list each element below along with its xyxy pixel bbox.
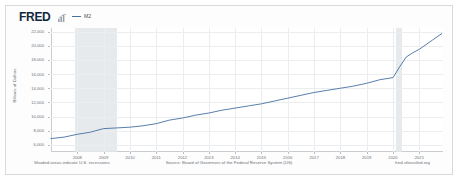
y-tick-mark [48,46,50,47]
y-tick-label: 22,000 [31,29,44,34]
chart-card: FRED M2 Billions of Dollars 22,00020,000… [5,5,453,175]
fred-chart-screenshot: FRED M2 Billions of Dollars 22,00020,000… [0,0,460,184]
y-tick-mark [48,102,50,103]
x-tick-mark [419,152,420,154]
series-path-m2 [51,34,442,139]
y-tick-mark [48,88,50,89]
y-tick-label: 12,000 [31,100,44,105]
y-tick-label: 10,000 [31,114,44,119]
y-tick-mark [48,74,50,75]
y-tick-label: 16,000 [31,72,44,77]
legend-label-m2[interactable]: M2 [84,13,91,20]
x-tick-mark [367,152,368,154]
bar-chart-icon [58,14,67,22]
chart-footer: Shaded areas indicate U.S. recessions So… [6,160,452,170]
y-tick-mark [48,131,50,132]
chart-header: FRED M2 [6,6,452,28]
fred-logo[interactable]: FRED [19,11,50,23]
x-tick-mark [156,152,157,154]
series-line-m2 [51,28,443,152]
y-tick-mark [48,60,50,61]
x-tick-mark [104,152,105,154]
chart-legend: M2 [72,13,91,20]
y-tick-label: 14,000 [31,86,44,91]
x-tick-mark [288,152,289,154]
y-tick-label: 8,000 [34,128,44,133]
y-tick-label: 18,000 [31,57,44,62]
y-tick-mark [48,117,50,118]
recession-note: Shaded areas indicate U.S. recessions [34,160,110,166]
x-tick-mark [183,152,184,154]
y-axis-title: Billions of Dollars [12,56,17,116]
x-tick-mark [77,152,78,154]
y-tick-mark [48,145,50,146]
legend-swatch-m2 [72,16,81,18]
site-link[interactable]: fred.stlouisfed.org [395,160,430,166]
plot-area [51,28,443,152]
y-axis: Billions of Dollars 22,00020,00018,00016… [6,28,48,152]
x-tick-mark [314,152,315,154]
x-tick-mark [340,152,341,154]
y-tick-label: 6,000 [34,142,44,147]
x-tick-mark [130,152,131,154]
source-note: Source: Board of Governors of the Federa… [166,160,293,166]
x-tick-mark [209,152,210,154]
x-tick-mark [393,152,394,154]
x-tick-mark [261,152,262,154]
x-tick-mark [235,152,236,154]
y-tick-label: 20,000 [31,43,44,48]
y-tick-mark [48,32,50,33]
